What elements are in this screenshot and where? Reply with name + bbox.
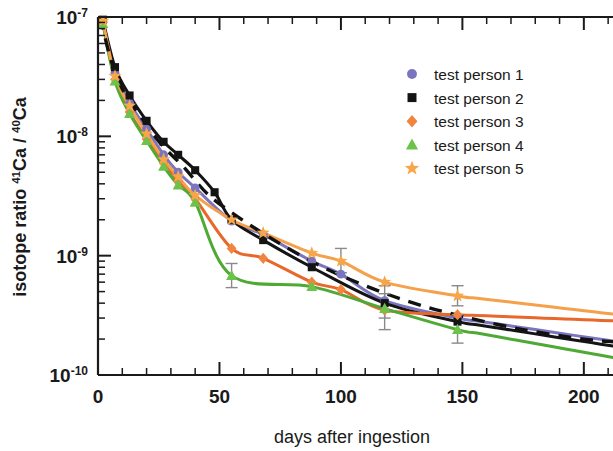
isotope-decay-chart: 10-710-810-910-10 050100150200 isotope r…: [0, 0, 613, 451]
legend-label: test person 5: [434, 160, 524, 177]
x-axis-title: days after ingestion: [274, 427, 430, 447]
data-point-marker: [160, 138, 168, 146]
data-point-marker: [211, 188, 219, 196]
data-point-marker: [143, 117, 151, 125]
data-point-marker: [174, 151, 182, 159]
x-tick-label: 150: [447, 386, 479, 407]
legend-label: test person 4: [434, 137, 524, 154]
x-tick-label: 100: [325, 386, 357, 407]
x-tick-label: 0: [93, 386, 104, 407]
x-tick-label: 200: [568, 386, 600, 407]
chart-svg: 10-710-810-910-10 050100150200 isotope r…: [0, 0, 613, 451]
legend-marker-circle-icon: [407, 69, 417, 79]
data-point-marker: [308, 263, 316, 271]
data-point-marker: [191, 166, 199, 174]
legend-label: test person 3: [434, 113, 524, 130]
data-point-marker: [126, 91, 134, 99]
legend-marker-square-icon: [408, 93, 417, 102]
legend-label: test person 1: [434, 66, 524, 83]
data-point-marker: [336, 270, 345, 279]
legend-label: test person 2: [434, 90, 524, 107]
svg-text:days after ingestion: days after ingestion: [274, 427, 430, 447]
x-tick-label: 50: [209, 386, 230, 407]
